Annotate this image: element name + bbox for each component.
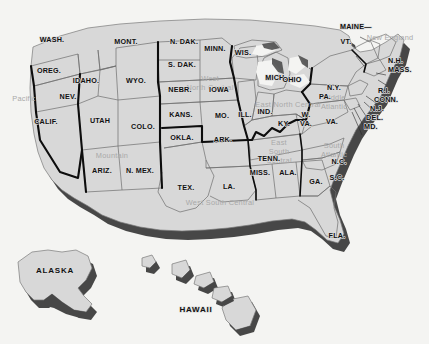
state-label-utah: UTAH (90, 116, 110, 125)
state-label-nmex: N. MEX. (126, 166, 154, 175)
state-label-idaho: IDAHO. (73, 76, 99, 85)
state-label-ri: R.I. (378, 86, 390, 95)
state-label-nh: N.H. (388, 56, 403, 65)
state-label-hawaii: HAWAII (179, 305, 212, 314)
state-label-fla: FLA. (329, 231, 346, 240)
region-label-new-england: New England (367, 33, 414, 42)
state-label-conn: CONN. (374, 95, 398, 104)
state-label-nebr: NEBR. (168, 85, 191, 94)
region-label-esc-line1: East (271, 138, 287, 147)
state-label-nc: N.C. (331, 157, 346, 166)
state-label-ny: N.Y. (327, 83, 341, 92)
state-label-mass: MASS. (388, 65, 412, 74)
state-label-wash: WASH. (40, 35, 65, 44)
region-label-sa-line1: South (324, 141, 345, 150)
state-label-ariz: ARIZ. (92, 166, 112, 175)
state-label-ohio: OHIO (282, 75, 301, 84)
state-label-ill: ILL. (238, 110, 252, 119)
map-labels: Pacific Mountain West North Central East… (0, 0, 429, 344)
state-label-minn: MINN. (204, 44, 225, 53)
us-census-region-map: Pacific Mountain West North Central East… (0, 0, 429, 344)
state-label-vt: VT. (341, 37, 352, 46)
state-label-sc: S.C. (330, 173, 345, 182)
state-label-iowa: IOWA (209, 85, 229, 94)
state-label-wva-line1: W. (302, 110, 311, 119)
state-label-nj: N.J. (370, 104, 384, 113)
state-label-pa: PA. (319, 92, 331, 101)
state-label-sdak: S. DAK. (168, 60, 196, 69)
state-label-wyo: WYO. (126, 76, 146, 85)
state-label-ark: ARK. (214, 135, 232, 144)
state-label-ndak: N. DAK. (170, 37, 198, 46)
region-label-pacific: Pacific (12, 94, 36, 103)
state-label-wva-line2: VA. (300, 119, 312, 128)
region-label-wnc-line1: West (201, 74, 219, 83)
state-label-md: MD. (364, 122, 378, 131)
state-label-wis: WIS. (235, 48, 251, 57)
state-label-okla: OKLA. (170, 133, 193, 142)
state-label-del: DEL. (366, 113, 383, 122)
state-label-ga: GA. (309, 177, 322, 186)
state-label-ala: ALA. (279, 168, 297, 177)
state-label-maine: MAINE— (340, 22, 372, 31)
state-label-miss: MISS. (250, 168, 271, 177)
state-label-ind: IND. (257, 107, 272, 116)
state-label-kans: KANS. (169, 110, 192, 119)
state-label-mont: MONT. (114, 37, 137, 46)
state-label-alaska: ALASKA (36, 266, 74, 275)
state-label-tenn: TENN. (258, 154, 281, 163)
state-label-nev: NEV. (60, 92, 77, 101)
region-label-mountain: Mountain (96, 151, 128, 160)
state-label-colo: COLO. (131, 122, 155, 131)
region-label-wsc: West South Central (186, 198, 255, 207)
state-label-la: LA. (223, 182, 235, 191)
state-label-mo: MO. (215, 111, 229, 120)
state-label-va: VA. (326, 117, 338, 126)
region-label-ma-line2: Atlantic (321, 102, 347, 111)
state-label-tex: TEX. (178, 183, 195, 192)
state-label-ky: KY. (278, 119, 290, 128)
state-label-oreg: OREG. (37, 66, 61, 75)
state-label-calif: CALIF. (34, 117, 58, 126)
